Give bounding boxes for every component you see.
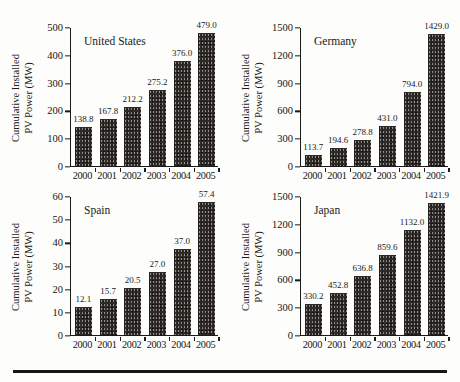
- y-axis-title: Cumulative Installed PV Power (MW): [239, 197, 267, 337]
- bar-value-label: 376.0: [172, 49, 192, 58]
- bar-value-label: 194.6: [328, 136, 348, 145]
- y-axis-title-line1: Cumulative Installed: [9, 197, 22, 337]
- y-tick-label: 60: [53, 192, 64, 203]
- y-tick-label: 300: [277, 134, 293, 145]
- y-axis-title: Cumulative Installed PV Power (MW): [9, 197, 37, 337]
- y-axis-title-line1: Cumulative Installed: [239, 28, 252, 168]
- bar-2001: [100, 299, 117, 335]
- y-tick-mark: [295, 252, 300, 253]
- y-tick-mark: [65, 266, 70, 267]
- y-tick-label: 0: [288, 331, 293, 342]
- y-axis-ticks: 030060090012001500: [268, 197, 296, 336]
- bar-2000: [75, 307, 92, 335]
- bar-value-label: 479.0: [197, 21, 217, 30]
- y-tick-label: 0: [58, 162, 63, 173]
- x-tick-label: 2005: [423, 339, 448, 353]
- bar-value-label: 859.6: [377, 243, 397, 252]
- y-tick-mark: [295, 111, 300, 112]
- bar-value-label: 1421.9: [424, 191, 449, 200]
- bar-value-label: 1429.0: [424, 22, 449, 31]
- y-tick-mark: [295, 335, 300, 336]
- y-tick-mark: [65, 335, 70, 336]
- x-tick-label: 2000: [300, 339, 325, 353]
- bottom-rule: [13, 370, 447, 373]
- bar-value-label: 330.2: [303, 292, 323, 301]
- y-axis-title-line2: PV Power (MW): [22, 197, 35, 337]
- y-axis-title-line1: Cumulative Installed: [9, 28, 22, 168]
- bar-2001: [330, 293, 347, 335]
- bar-value-label: 15.7: [100, 287, 116, 296]
- chart-united-states: Cumulative Installed PV Power (MW) 01002…: [6, 12, 228, 182]
- y-tick-label: 1500: [272, 23, 293, 34]
- x-tick-mark: [218, 337, 219, 342]
- bar-value-label: 1132.0: [400, 218, 424, 227]
- bar-2002: [124, 288, 141, 335]
- bar-2001: [100, 119, 117, 166]
- chart-title: Spain: [84, 204, 110, 216]
- y-tick-mark: [65, 139, 70, 140]
- chart-title: United States: [84, 35, 146, 47]
- x-tick-label: 2002: [349, 339, 374, 353]
- bar-value-label: 138.8: [73, 115, 93, 124]
- bar-2003: [379, 255, 396, 335]
- y-axis-ticks: 0102030405060: [38, 197, 66, 336]
- y-axis-title: Cumulative Installed PV Power (MW): [9, 28, 37, 168]
- y-tick-label: 600: [277, 275, 293, 286]
- bar-2004: [404, 230, 421, 335]
- y-tick-mark: [65, 166, 70, 167]
- bar-2000: [75, 127, 92, 166]
- y-tick-label: 10: [53, 308, 64, 319]
- y-axis-title: Cumulative Installed PV Power (MW): [239, 28, 267, 168]
- bar-2004: [174, 249, 191, 335]
- bar-value-label: 27.0: [149, 260, 165, 269]
- y-tick-mark: [65, 55, 70, 56]
- y-tick-mark: [65, 83, 70, 84]
- y-tick-mark: [65, 111, 70, 112]
- y-tick-label: 600: [277, 106, 293, 117]
- bar-2005: [198, 33, 215, 166]
- bar-value-label: 452.8: [328, 281, 348, 290]
- x-tick-mark: [218, 168, 219, 173]
- chart-germany: Cumulative Installed PV Power (MW) 03006…: [236, 12, 458, 182]
- y-tick-label: 40: [53, 238, 64, 249]
- y-tick-mark: [295, 196, 300, 197]
- bar-2003: [379, 126, 396, 166]
- bar-2001: [330, 148, 347, 166]
- y-tick-mark: [295, 280, 300, 281]
- bar-value-label: 12.1: [75, 295, 91, 304]
- chart-japan: Cumulative Installed PV Power (MW) 03006…: [236, 181, 458, 351]
- bar-value-label: 636.8: [353, 264, 373, 273]
- y-axis-ticks: 030060090012001500: [268, 28, 296, 167]
- y-tick-label: 300: [277, 303, 293, 314]
- x-tick-label: 2003: [144, 339, 169, 353]
- y-tick-mark: [295, 139, 300, 140]
- y-tick-label: 0: [58, 331, 63, 342]
- y-tick-label: 30: [53, 261, 64, 272]
- y-axis-title-line1: Cumulative Installed: [239, 197, 252, 337]
- bar-value-label: 37.0: [174, 237, 190, 246]
- y-tick-label: 200: [47, 106, 63, 117]
- y-tick-label: 900: [277, 78, 293, 89]
- y-tick-label: 100: [47, 134, 63, 145]
- y-axis-ticks: 0100200300400500: [38, 28, 66, 167]
- y-axis-title-line2: PV Power (MW): [252, 197, 265, 337]
- x-tick-label: 2004: [399, 339, 424, 353]
- y-tick-label: 20: [53, 284, 64, 295]
- chart-title: Japan: [314, 204, 340, 216]
- bar-value-label: 212.2: [123, 95, 143, 104]
- bar-2005: [198, 202, 215, 335]
- bar-2004: [404, 92, 421, 166]
- plot-area: Spain 12.115.720.527.037.057.4: [70, 197, 218, 336]
- bar-2002: [124, 107, 141, 166]
- y-tick-mark: [295, 166, 300, 167]
- y-tick-mark: [295, 83, 300, 84]
- plot-area: Germany 113.7194.6278.8431.0794.01429.0: [300, 28, 448, 167]
- y-tick-label: 500: [47, 23, 63, 34]
- plot-area: Japan 330.2452.8636.8859.61132.01421.9: [300, 197, 448, 336]
- bar-2000: [305, 304, 322, 335]
- bar-value-label: 275.2: [147, 78, 167, 87]
- x-tick-mark: [448, 337, 449, 342]
- chart-spain: Cumulative Installed PV Power (MW) 01020…: [6, 181, 228, 351]
- x-tick-label: 2001: [325, 339, 350, 353]
- y-axis-title-line2: PV Power (MW): [22, 28, 35, 168]
